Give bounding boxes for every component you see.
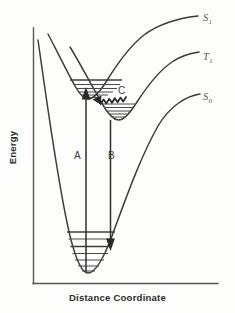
- t1-label-base: T: [203, 51, 209, 62]
- s0-label: S0: [203, 92, 212, 103]
- s1-label: S1: [203, 13, 212, 24]
- diagram-canvas: [0, 0, 235, 313]
- t1-label-subscript: 1: [209, 57, 213, 65]
- potential-energy-diagram: S1 T1 S0 A B C Energy Distance Coordinat…: [0, 0, 235, 313]
- transition-arrow-a: [82, 87, 91, 272]
- s1-label-base: S: [203, 12, 208, 23]
- t1-potential-curve: [70, 47, 199, 120]
- s1-label-subscript: 1: [209, 18, 213, 26]
- process-label-c: C: [118, 86, 125, 96]
- s0-potential-curve: [38, 40, 200, 273]
- s0-label-subscript: 0: [209, 97, 213, 105]
- t1-label: T1: [203, 52, 212, 63]
- axis-group: [33, 28, 218, 284]
- t1-curve-group: [70, 47, 199, 120]
- y-axis-label: Energy: [7, 120, 18, 176]
- arrow-c-squiggle: [98, 97, 126, 104]
- s0-curve-group: [38, 40, 200, 273]
- transition-arrow-c: [93, 96, 127, 105]
- s1-vibrational-levels: [70, 80, 122, 98]
- process-label-b: B: [108, 151, 115, 161]
- s0-label-base: S: [203, 91, 208, 102]
- x-axis-label: Distance Coordinate: [0, 292, 235, 303]
- process-label-a: A: [74, 151, 81, 161]
